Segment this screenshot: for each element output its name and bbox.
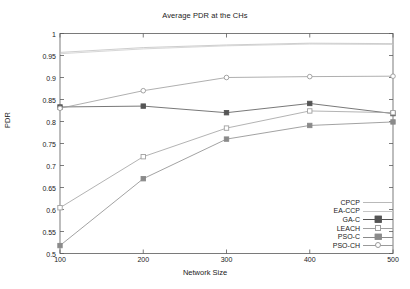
legend-item-label: CPCP (341, 199, 363, 206)
x-axis-label: Network Size (0, 268, 410, 277)
chart-title: Average PDR at the CHs (0, 11, 410, 20)
legend-item-sample (363, 233, 393, 241)
legend-open-square-icon (375, 225, 381, 231)
legend-item: PSO-CH (297, 241, 393, 250)
chart-legend: CPCPEA-CCPGA-CLEACHPSO-CPSO-CH (297, 198, 393, 250)
x-tick-label: 500 (387, 256, 399, 263)
chart-figure: Average PDR at the CHs PDR Network Size … (0, 0, 410, 289)
series-ga-c (58, 101, 395, 116)
legend-filled-square-icon (375, 216, 382, 223)
legend-item-sample (363, 241, 393, 249)
legend-item-label: LEACH (337, 225, 363, 232)
legend-item: CPCP (297, 198, 393, 207)
legend-open-circle-icon (375, 242, 381, 248)
y-axis-label: PDR (3, 112, 12, 128)
legend-item-label: PSO-CH (333, 242, 363, 249)
legend-line-icon (363, 211, 393, 212)
legend-item: EA-CCP (297, 207, 393, 216)
legend-item: LEACH (297, 224, 393, 233)
legend-item-sample (363, 215, 393, 223)
x-tick-label: 300 (221, 256, 233, 263)
x-tick-label: 100 (54, 256, 66, 263)
legend-item-sample (363, 198, 393, 206)
legend-item-sample (363, 224, 393, 232)
series-pso-ch (58, 74, 396, 111)
x-tick-label: 400 (304, 256, 316, 263)
legend-line-icon (363, 202, 393, 203)
legend-item: GA-C (297, 215, 393, 224)
x-tick-label: 200 (137, 256, 149, 263)
legend-filled-square-icon (375, 233, 382, 240)
legend-item-label: EA-CCP (334, 207, 363, 214)
legend-item-label: GA-C (343, 216, 364, 223)
series-ea-ccp (60, 44, 393, 54)
legend-item-sample (363, 207, 393, 215)
legend-item: PSO-C (297, 232, 393, 241)
legend-item-label: PSO-C (338, 233, 363, 240)
